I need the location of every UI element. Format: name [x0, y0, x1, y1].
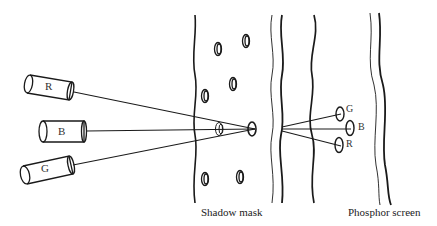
dot-label-r: R — [346, 138, 353, 149]
mask-apertures — [202, 35, 257, 186]
shadow-mask-label: Shadow mask — [201, 206, 262, 218]
phosphor-screen-label: Phosphor screen — [348, 206, 420, 218]
gun-label-r: R — [45, 80, 52, 92]
gun-label-g: G — [41, 162, 49, 174]
shadow-mask-right-thick — [280, 15, 283, 203]
diverging-beams — [282, 114, 351, 146]
crt-diagram — [0, 0, 437, 226]
phosphor-screen-thin — [370, 13, 380, 205]
phosphor-screen-thick — [379, 13, 391, 205]
shadow-mask-left-edge — [194, 15, 197, 203]
dot-label-g: G — [346, 103, 353, 114]
electron-beams — [73, 92, 255, 165]
glass-inner-edge — [310, 15, 316, 203]
shadow-mask-right-thin — [271, 15, 273, 203]
dot-label-b: B — [358, 121, 365, 132]
gun-label-b: B — [58, 125, 65, 137]
